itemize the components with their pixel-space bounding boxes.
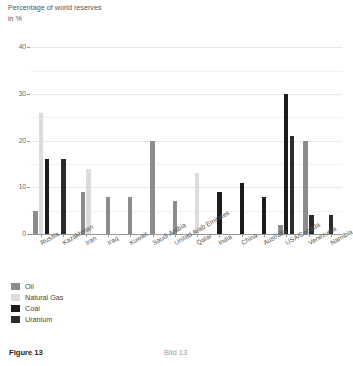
legend-label: Oil [25,282,34,291]
chart-legend: OilNatural GasCoalUranium [11,281,63,325]
gridline-minor [30,211,342,212]
legend-swatch-icon [11,305,20,312]
legend-swatch-icon [11,283,20,290]
x-tick-mark [309,234,310,237]
bar [128,197,132,234]
x-tick-mark [130,234,131,237]
y-axis-title: Percentage of world reserves in % [8,3,101,24]
bar [150,141,154,234]
bar [284,94,288,234]
legend-label: Natural Gas [25,293,63,302]
gridline-minor [30,164,342,165]
figure-caption-de: Bild 13 [164,348,187,357]
x-tick-mark [108,234,109,237]
bar [45,159,49,234]
x-tick-mark [331,234,332,237]
legend-label: Uranium [25,315,52,324]
figure-caption-en: Figure 13 [9,348,43,357]
y-tick-mark [27,94,30,95]
y-tick-label: 30 [0,90,26,97]
x-tick-mark [175,234,176,237]
y-tick-label: 20 [0,137,26,144]
x-tick-mark [153,234,154,237]
gridline [30,187,342,188]
bar [106,197,110,234]
gridline-minor [30,117,342,118]
legend-item: Uranium [11,314,63,325]
x-tick-mark [197,234,198,237]
legend-item: Natural Gas [11,292,63,303]
gridline [30,47,342,48]
gridline [30,141,342,142]
y-tick-mark [27,47,30,48]
y-tick-label: 40 [0,43,26,50]
gridline [30,94,342,95]
x-tick-mark [86,234,87,237]
legend-label: Coal [25,304,40,313]
x-tick-mark [264,234,265,237]
legend-item: Oil [11,281,63,292]
bar [240,183,244,234]
bar [303,141,307,234]
bar [262,197,266,234]
bar [39,113,43,234]
x-tick-mark [41,234,42,237]
y-tick-label: 0 [0,230,26,237]
y-tick-mark [27,187,30,188]
bar [33,211,37,234]
legend-swatch-icon [11,316,20,323]
chart-plot-area [30,38,342,234]
gridline-minor [30,71,342,72]
y-tick-label: 10 [0,183,26,190]
bar [61,159,65,234]
y-tick-mark [27,141,30,142]
x-tick-mark [242,234,243,237]
bar [290,136,294,234]
legend-swatch-icon [11,294,20,301]
y-tick-mark [27,234,30,235]
x-tick-mark [286,234,287,237]
legend-item: Coal [11,303,63,314]
